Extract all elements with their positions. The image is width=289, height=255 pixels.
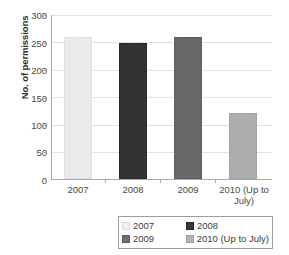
y-tick-mark-150 (44, 98, 47, 99)
legend-row-1: 2007 2008 (122, 219, 269, 232)
x-tick-label-2008: 2008 (106, 184, 160, 195)
y-tick-label-250: 250 (3, 37, 47, 48)
y-tick-label-50: 50 (3, 147, 47, 158)
bar-2007-fill (65, 38, 91, 178)
legend-label-2008: 2008 (197, 220, 218, 231)
legend-swatch-2009 (122, 235, 130, 243)
chart-legend: 2007 2008 2009 2010 (Up to July) (118, 216, 273, 249)
legend-item-2008[interactable]: 2008 (186, 220, 218, 231)
x-tick-label-2008-line1: 2008 (106, 184, 160, 195)
y-tick-mark-250 (44, 43, 47, 44)
legend-label-2007: 2007 (133, 220, 154, 231)
bar-2010-fill (230, 114, 256, 178)
legend-swatch-2007 (122, 222, 130, 230)
bar-2009-fill (175, 38, 201, 178)
legend-item-2007[interactable]: 2007 (122, 220, 186, 231)
y-tick-label-300: 300 (3, 10, 47, 21)
x-tick-label-2009-line1: 2009 (161, 184, 215, 195)
y-tick-mark-200 (44, 70, 47, 71)
bar-2009[interactable] (174, 37, 202, 179)
x-tick-mark-3 (215, 180, 216, 183)
bar-group (52, 15, 272, 179)
legend-row-2: 2009 2010 (Up to July) (122, 232, 269, 245)
x-tick-label-2007: 2007 (51, 184, 105, 195)
bar-chart: No. of permissions 300 250 200 150 100 5… (0, 0, 289, 255)
bar-2010-up-to-july[interactable] (229, 113, 257, 179)
x-axis-labels: 2007 2008 2009 2010 (Up to July) (51, 184, 272, 214)
bar-2008[interactable] (119, 43, 147, 179)
x-tick-mark-1 (105, 180, 106, 183)
x-tick-label-2010-line1: 2010 (Up to (216, 184, 272, 195)
y-tick-label-100: 100 (3, 120, 47, 131)
x-tick-label-2009: 2009 (161, 184, 215, 195)
x-tick-label-2007-line1: 2007 (51, 184, 105, 195)
legend-item-2009[interactable]: 2009 (122, 233, 186, 244)
legend-label-2010: 2010 (Up to July) (197, 233, 269, 244)
y-tick-mark-100 (44, 125, 47, 126)
legend-swatch-2010 (186, 235, 194, 243)
legend-label-2009: 2009 (133, 233, 154, 244)
y-axis-ticks: 300 250 200 150 100 50 0 (0, 15, 47, 180)
y-tick-mark-50 (44, 152, 47, 153)
plot-area (51, 15, 272, 180)
x-tick-label-2010-line2: July) (216, 195, 272, 206)
y-tick-mark-300 (44, 15, 47, 16)
bar-2007[interactable] (64, 37, 92, 179)
y-tick-label-0: 0 (3, 175, 47, 186)
y-tick-label-200: 200 (3, 64, 47, 75)
legend-item-2010-up-to-july[interactable]: 2010 (Up to July) (186, 233, 269, 244)
x-tick-label-2010: 2010 (Up to July) (216, 184, 272, 206)
x-tick-mark-2 (160, 180, 161, 183)
y-tick-label-150: 150 (3, 92, 47, 103)
legend-swatch-2008 (186, 222, 194, 230)
bar-2008-fill (120, 44, 146, 178)
